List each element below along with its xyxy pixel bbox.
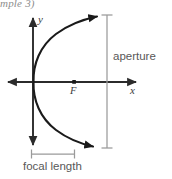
parabola-diagram bbox=[0, 0, 172, 179]
aperture-label: aperture bbox=[113, 50, 156, 62]
parabola-figure: mple 3) y x F aperture f bbox=[0, 0, 172, 179]
y-axis-label: y bbox=[38, 13, 43, 25]
focal-length-label: focal length bbox=[23, 160, 82, 172]
x-axis-label: x bbox=[130, 84, 135, 96]
parabola-lower-branch bbox=[33, 82, 93, 147]
parabola-upper-branch bbox=[33, 17, 97, 83]
focus-label: F bbox=[70, 85, 76, 96]
focus-point-marker bbox=[72, 80, 76, 84]
